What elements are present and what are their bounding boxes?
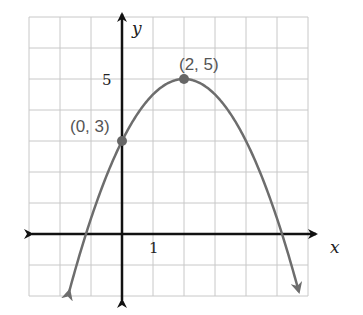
axes	[32, 14, 316, 300]
vertex-label: (2, 5)	[179, 55, 219, 74]
parabola-graph: (0, 3) (2, 5) 5 1 y x	[0, 0, 363, 315]
grid-lines	[29, 17, 308, 296]
y-axis-label: y	[131, 18, 142, 38]
y-intercept-point	[117, 136, 127, 146]
x-axis-label: x	[330, 237, 340, 257]
vertex-point	[179, 74, 189, 84]
y-intercept-label: (0, 3)	[70, 117, 110, 136]
x-tick-1: 1	[149, 239, 159, 257]
y-tick-5: 5	[102, 71, 112, 89]
